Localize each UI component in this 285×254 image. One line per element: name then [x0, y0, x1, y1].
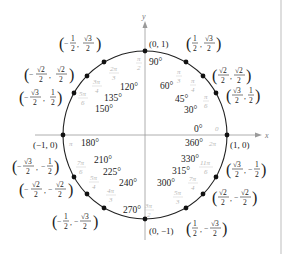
svg-text:1: 1	[255, 160, 259, 169]
svg-text:6: 6	[79, 168, 83, 176]
coord-315: ( √22 , − √22 )	[212, 188, 257, 207]
svg-text:): )	[96, 35, 101, 53]
svg-text:−: −	[57, 217, 61, 226]
svg-text:2: 2	[58, 190, 62, 199]
svg-text:6: 6	[204, 102, 208, 110]
rad-5pi-3: 5π3	[173, 189, 183, 206]
svg-text:,: ,	[230, 72, 232, 81]
point-150	[72, 91, 77, 96]
svg-text:3π: 3π	[92, 78, 101, 86]
svg-text:1: 1	[71, 34, 75, 43]
rad-2pi-3: 2π3	[109, 65, 119, 82]
svg-text:7π: 7π	[77, 159, 85, 167]
svg-text:√3: √3	[233, 86, 241, 95]
svg-text:√3: √3	[211, 219, 219, 228]
unit-circle-diagram: x y 90° 60° 45° 30° 0° 360° 120° 135° 15…	[0, 0, 285, 254]
svg-text:,: ,	[44, 186, 46, 195]
deg-330: 330°	[181, 154, 199, 164]
deg-210: 210°	[94, 155, 112, 165]
svg-text:,: ,	[77, 40, 79, 49]
svg-text:√3: √3	[84, 34, 92, 43]
rad-5pi-4: 5π4	[89, 174, 99, 191]
svg-text:): )	[54, 158, 59, 176]
svg-text:2: 2	[221, 76, 225, 85]
svg-text:2: 2	[213, 229, 217, 238]
deg-315: 315°	[172, 166, 190, 176]
svg-text:): )	[252, 189, 257, 207]
svg-text:√2: √2	[219, 66, 227, 75]
rad-3pi-2: 3π2	[144, 202, 154, 219]
point-180	[61, 133, 66, 138]
coord-60: ( 12 , √32 )	[186, 34, 221, 53]
point-45	[201, 74, 206, 79]
svg-text:7π: 7π	[189, 175, 197, 183]
rad-0: 0	[215, 125, 219, 133]
svg-text:): )	[216, 35, 221, 53]
svg-text:(: (	[186, 35, 191, 53]
deg-225: 225°	[103, 167, 121, 177]
svg-text:2π: 2π	[110, 65, 118, 73]
svg-text:): )	[57, 89, 62, 107]
svg-text:√3: √3	[233, 160, 241, 169]
svg-text:2: 2	[59, 75, 63, 84]
svg-text:−: −	[24, 185, 28, 194]
coord-225: ( − √22 , − √22 )	[19, 180, 73, 199]
svg-text:1: 1	[51, 88, 55, 97]
svg-text:−: −	[204, 224, 208, 233]
point-300	[184, 206, 189, 211]
svg-text:2: 2	[33, 98, 37, 107]
point-210	[72, 175, 77, 180]
point-60	[184, 60, 189, 65]
svg-text:−: −	[234, 193, 238, 202]
rad-3pi-4: 3π4	[92, 78, 102, 95]
rad-pi: π	[69, 140, 73, 148]
svg-text:−: −	[29, 70, 33, 79]
svg-text:√2: √2	[241, 188, 249, 197]
svg-text:4π: 4π	[107, 187, 115, 195]
y-axis-arrow-icon	[143, 21, 148, 28]
svg-text:(: (	[212, 189, 217, 207]
deg-360: 360°	[185, 138, 203, 148]
deg-300: 300°	[157, 178, 175, 188]
svg-text:−: −	[24, 93, 28, 102]
svg-text:3: 3	[175, 198, 180, 206]
svg-text:2: 2	[64, 222, 68, 231]
deg-45: 45°	[175, 94, 189, 104]
svg-text:2: 2	[193, 229, 197, 238]
svg-text:): )	[255, 87, 260, 105]
deg-90: 90°	[149, 57, 163, 67]
svg-text:): )	[93, 213, 98, 231]
point-30	[214, 91, 219, 96]
y-axis-label: y	[141, 12, 146, 21]
svg-text:2: 2	[235, 96, 239, 105]
svg-text:2: 2	[39, 75, 43, 84]
svg-text:5π: 5π	[90, 174, 98, 182]
svg-text:2: 2	[48, 167, 52, 176]
coord-45: ( √22 , √22 )	[212, 66, 251, 85]
deg-120: 120°	[120, 82, 138, 92]
coord-30: ( √32 , 12 )	[226, 86, 260, 105]
svg-text:√2: √2	[37, 65, 45, 74]
svg-text:): )	[246, 67, 251, 85]
deg-30: 30°	[184, 105, 198, 115]
coord-210: ( − √32 , − 12 )	[12, 157, 59, 176]
x-axis-arrow-icon	[255, 133, 262, 138]
svg-text:2: 2	[249, 96, 253, 105]
rad-2pi: 2π	[209, 140, 217, 148]
svg-text:2: 2	[193, 44, 197, 53]
deg-240: 240°	[119, 178, 137, 188]
svg-text:2: 2	[255, 170, 259, 179]
coord-240: ( − 12 , − √32 )	[52, 212, 98, 231]
svg-text:−: −	[248, 165, 252, 174]
coord-0-1: (0, 1)	[149, 39, 169, 49]
coord-neg1-0: (−1, 0)	[33, 140, 58, 150]
svg-text:,: ,	[49, 71, 51, 80]
svg-text:,: ,	[43, 94, 45, 103]
svg-text:1: 1	[64, 212, 68, 221]
svg-text:,: ,	[244, 92, 246, 101]
rad-7pi-6: 7π6	[76, 159, 86, 176]
svg-text:√2: √2	[57, 65, 65, 74]
point-315	[201, 192, 206, 197]
rad-pi-6: π6	[203, 93, 209, 110]
svg-text:2: 2	[51, 98, 55, 107]
